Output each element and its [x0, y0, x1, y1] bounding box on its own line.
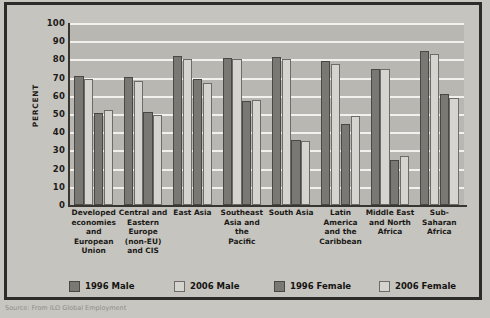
bar [124, 77, 133, 205]
bar [380, 69, 389, 206]
y-tick-label: 90 [35, 37, 65, 46]
x-category-label: Middle Eastand NorthAfrica [365, 208, 414, 237]
legend-label: 2006 Female [395, 281, 456, 291]
bar [351, 116, 360, 205]
bar [430, 54, 439, 205]
x-axis-line [69, 205, 467, 207]
y-tick-label: 50 [35, 110, 65, 119]
bar [282, 59, 291, 205]
x-category-label-line: Europe [118, 227, 167, 237]
x-axis-category-labels: DevelopedeconomiesandEuropeanUnionCentra… [69, 208, 467, 276]
chart-legend: 1996 Male2006 Male1996 Female2006 Female [69, 277, 461, 295]
bar-group [415, 23, 464, 205]
bar [390, 160, 399, 205]
bar-group [217, 23, 266, 205]
x-category-label-line: and the [316, 227, 365, 237]
y-tick-label: 100 [35, 19, 65, 28]
bar [371, 69, 380, 206]
y-tick-label: 0 [35, 201, 65, 210]
x-category-label: Central andEasternEurope(non-EU)and CIS [118, 208, 167, 256]
y-tick-label: 30 [35, 146, 65, 155]
bar [341, 124, 350, 205]
x-category-label-line: and CIS [118, 246, 167, 256]
bar [223, 58, 232, 205]
x-category-label-line: Union [69, 246, 118, 256]
x-category-label: East Asia [168, 208, 217, 218]
x-category-label-line: Southeast [217, 208, 266, 218]
bar [143, 112, 152, 205]
bar [74, 76, 83, 205]
x-category-label-line: Middle East [365, 208, 414, 218]
bar [242, 101, 251, 205]
bar [153, 115, 162, 205]
bar [134, 81, 143, 205]
x-category-label: South Asia [267, 208, 316, 218]
legend-swatch-icon [379, 281, 390, 292]
y-tick-label: 80 [35, 55, 65, 64]
bar [94, 113, 103, 205]
x-category-label-line: (non-EU) [118, 237, 167, 247]
bar [440, 94, 449, 205]
bar-group [69, 23, 118, 205]
x-category-label-line: South Asia [267, 208, 316, 218]
bar [301, 141, 310, 205]
x-category-label-line: Developed [69, 208, 118, 218]
y-tick-label: 60 [35, 92, 65, 101]
x-category-label: DevelopedeconomiesandEuropeanUnion [69, 208, 118, 256]
bar [252, 100, 261, 205]
bar [272, 57, 281, 205]
legend-item[interactable]: 1996 Male [69, 281, 135, 292]
bar [173, 56, 182, 205]
y-axis-line [68, 23, 70, 207]
y-tick-label: 10 [35, 183, 65, 192]
x-category-label-line: Eastern [118, 218, 167, 228]
bar [291, 140, 300, 205]
x-category-label-line: Caribbean [316, 237, 365, 247]
y-axis-tick-labels: 0102030405060708090100 [35, 17, 65, 212]
bar [321, 61, 330, 205]
x-category-label-line: Central and [118, 208, 167, 218]
legend-label: 2006 Male [190, 281, 240, 291]
y-tick-label: 70 [35, 74, 65, 83]
bar [400, 156, 409, 205]
plot-area [69, 23, 464, 205]
x-category-label-line: Pacific [217, 237, 266, 247]
bar [449, 98, 458, 205]
y-tick-label: 20 [35, 165, 65, 174]
legend-item[interactable]: 2006 Male [174, 281, 240, 292]
x-category-label: Sub-SaharanAfrica [415, 208, 464, 237]
bar [420, 51, 429, 205]
legend-swatch-icon [69, 281, 80, 292]
x-category-label-line: Asia and the [217, 218, 266, 237]
legend-swatch-icon [174, 281, 185, 292]
bar-group [365, 23, 414, 205]
x-category-label-line: Saharan [415, 218, 464, 228]
x-category-label-line: economies [69, 218, 118, 228]
x-category-label-line: Latin [316, 208, 365, 218]
bar [193, 79, 202, 205]
legend-item[interactable]: 1996 Female [274, 281, 351, 292]
x-category-label-line: and [69, 227, 118, 237]
x-category-label-line: Sub- [415, 208, 464, 218]
legend-swatch-icon [274, 281, 285, 292]
x-category-label-line: East Asia [168, 208, 217, 218]
bar-group [316, 23, 365, 205]
chart-figure: PERCENT 0102030405060708090100 Developed… [4, 2, 482, 300]
bar [232, 59, 241, 206]
x-category-label-line: America [316, 218, 365, 228]
x-category-label-line: European [69, 237, 118, 247]
source-caption: Source: From ILO Global Employment [5, 304, 325, 312]
x-category-label-line: and North [365, 218, 414, 228]
bar-group [267, 23, 316, 205]
x-category-label: LatinAmericaand theCaribbean [316, 208, 365, 246]
bar [331, 64, 340, 205]
bar [84, 79, 93, 205]
legend-item[interactable]: 2006 Female [379, 281, 456, 292]
bar [203, 83, 212, 205]
bar-group [168, 23, 217, 205]
x-category-label: SoutheastAsia and thePacific [217, 208, 266, 246]
bar-group [118, 23, 167, 205]
y-tick-label: 40 [35, 128, 65, 137]
bar [183, 59, 192, 205]
x-category-label-line: Africa [415, 227, 464, 237]
